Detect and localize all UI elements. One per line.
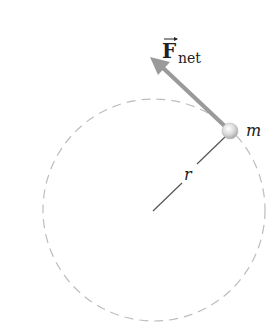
radius-line-upper [197,136,226,164]
mass-label: m [246,121,261,140]
radius-label: r [184,165,193,184]
force-subscript: net [178,50,201,66]
circular-motion-diagram: F net m r [0,0,277,333]
mass-ball [222,123,238,139]
net-force-arrow [150,57,229,130]
radius-line-lower [153,183,182,211]
force-symbol: F [162,39,176,63]
force-label: F net [162,37,201,66]
